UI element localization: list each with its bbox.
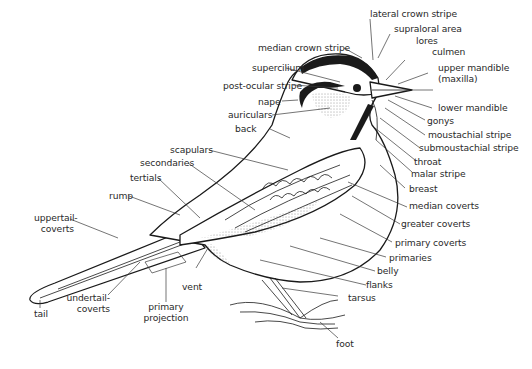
- label-throat: throat: [414, 157, 441, 167]
- label-vent: vent: [182, 282, 202, 292]
- label-auriculars: auriculars: [228, 110, 272, 120]
- label-upper-mandible: upper mandible: [438, 63, 509, 73]
- label-undertail-coverts-line1: undertail-: [60, 293, 110, 303]
- label-belly: belly: [377, 266, 399, 276]
- label-malar-stripe: malar stripe: [411, 169, 465, 179]
- label-maxilla: (maxilla): [438, 74, 478, 84]
- label-uppertail-coverts-line2: coverts: [34, 224, 74, 234]
- label-tail: tail: [34, 309, 48, 319]
- label-rump: rump: [109, 191, 133, 201]
- label-lateral-crown-stripe: lateral crown stripe: [370, 9, 457, 19]
- label-tarsus: tarsus: [348, 293, 376, 303]
- label-supercilium: supercilium: [252, 63, 304, 73]
- label-primaries: primaries: [389, 253, 432, 263]
- label-nape: nape: [258, 97, 281, 107]
- label-greater-coverts: greater coverts: [401, 219, 470, 229]
- label-gonys: gonys: [427, 116, 454, 126]
- label-lower-mandible: lower mandible: [438, 103, 507, 113]
- label-primary-projection-line2: projection: [140, 313, 192, 323]
- bird-topography-diagram: lateral crown stripe median crown stripe…: [0, 0, 532, 369]
- label-flanks: flanks: [366, 280, 393, 290]
- label-moustachial-stripe: moustachial stripe: [428, 130, 511, 140]
- label-tertials: tertials: [130, 173, 161, 183]
- label-secondaries: secondaries: [140, 158, 194, 168]
- label-supraloral-area: supraloral area: [394, 24, 462, 34]
- label-median-coverts: median coverts: [409, 201, 479, 211]
- legs-drawing: [230, 278, 345, 329]
- label-primary-projection-line1: primary: [140, 302, 192, 312]
- label-undertail-coverts-line2: coverts: [60, 304, 110, 314]
- label-uppertail-coverts-line1: uppertail-: [34, 213, 74, 223]
- label-breast: breast: [409, 184, 437, 194]
- label-post-ocular-stripe: post-ocular stripe: [223, 81, 302, 91]
- label-lores: lores: [416, 36, 438, 46]
- label-primary-coverts: primary coverts: [395, 238, 466, 248]
- label-scapulars: scapulars: [170, 145, 213, 155]
- label-culmen: culmen: [432, 47, 465, 57]
- label-submoustachial-stripe: submoustachial stripe: [419, 143, 519, 153]
- label-back: back: [235, 124, 256, 134]
- label-foot: foot: [336, 339, 354, 349]
- label-median-crown-stripe: median crown stripe: [258, 43, 350, 53]
